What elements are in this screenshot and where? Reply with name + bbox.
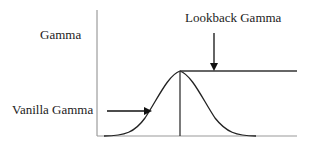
y-axis-label: Gamma: [40, 28, 81, 42]
vanilla-gamma-label: Vanilla Gamma: [12, 103, 93, 117]
gamma-diagram: Gamma Lookback Gamma Vanilla Gamma: [0, 0, 310, 148]
lookback-gamma-label: Lookback Gamma: [185, 11, 281, 25]
